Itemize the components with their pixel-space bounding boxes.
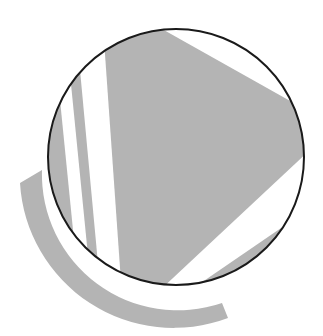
triangle-shape [104, 20, 310, 296]
stripe-middle [70, 70, 101, 296]
geometric-diagram [0, 0, 323, 336]
